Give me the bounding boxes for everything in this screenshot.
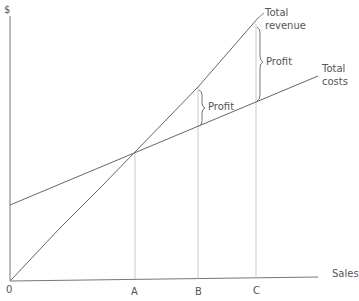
- profit-brace-b: [199, 90, 205, 126]
- y-axis-label: $: [4, 4, 10, 16]
- tick-label-b: B: [195, 286, 202, 298]
- x-axis-label: Sales: [332, 268, 359, 280]
- profit-label-c: Profit: [266, 56, 292, 68]
- profit-brace-c: [257, 27, 263, 101]
- total-costs-label-line2: costs: [322, 76, 348, 88]
- profit-label-b: Profit: [208, 101, 234, 113]
- total-costs-label-line1: Total: [322, 63, 345, 75]
- total-revenue-leader: [258, 13, 264, 18]
- origin-label: 0: [6, 284, 12, 296]
- total-revenue-label-line1: Total: [265, 7, 288, 19]
- total-revenue-line: [11, 18, 258, 280]
- total-revenue-label-line2: revenue: [265, 20, 306, 32]
- x-axis: [10, 277, 318, 281]
- tick-label-a: A: [131, 286, 138, 298]
- tick-label-c: C: [253, 285, 260, 297]
- total-costs-line: [10, 76, 318, 205]
- break-even-diagram: [0, 0, 359, 301]
